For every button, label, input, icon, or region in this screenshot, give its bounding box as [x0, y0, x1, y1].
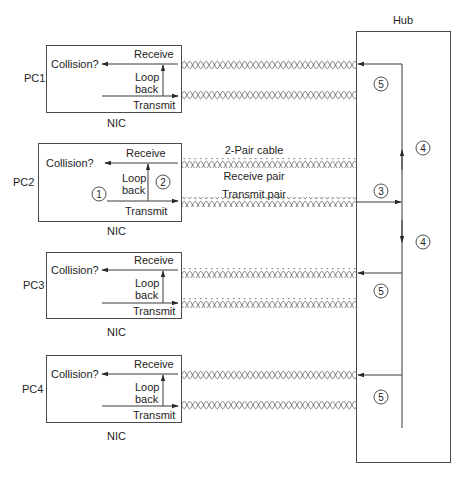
- back-label: back: [135, 83, 159, 95]
- collision-label: Collision?: [51, 368, 99, 380]
- transmit-label: Transmit: [133, 99, 175, 111]
- pc2-label: PC2: [13, 176, 34, 188]
- pc4-transmit-pair: [182, 401, 356, 411]
- transmit-pair-label: Transmit pair: [222, 188, 286, 200]
- pc2: PC2 Receive Collision? Loop back 2 1 Tra…: [13, 144, 182, 238]
- loop-label: Loop: [135, 381, 159, 393]
- step-5-pc3: 5: [374, 284, 388, 298]
- loop-label: Loop: [122, 172, 146, 184]
- nic-label: NIC: [107, 430, 126, 442]
- transmit-label: Transmit: [133, 305, 175, 317]
- loop-label: Loop: [135, 71, 159, 83]
- step-1: 1: [92, 187, 106, 201]
- pc2-receive-pair: [182, 158, 356, 168]
- receive-label: Receive: [126, 147, 166, 159]
- transmit-label: Transmit: [125, 205, 167, 217]
- receive-pair-label: Receive pair: [223, 170, 284, 182]
- pc3-label: PC3: [23, 279, 44, 291]
- step-5-pc4: 5: [374, 390, 388, 404]
- receive-label: Receive: [134, 254, 174, 266]
- step-2: 2: [156, 175, 170, 189]
- back-label: back: [122, 184, 146, 196]
- nic-label: NIC: [107, 326, 126, 338]
- pc4-receive-pair: [182, 370, 356, 380]
- svg-text:4: 4: [420, 143, 426, 154]
- cable-title: 2-Pair cable: [225, 144, 284, 156]
- svg-text:5: 5: [378, 392, 384, 403]
- step-5-pc1: 5: [374, 77, 388, 91]
- transmit-label: Transmit: [133, 409, 175, 421]
- pc4: PC4 Receive Collision? Loop back Transmi…: [22, 356, 182, 443]
- svg-text:4: 4: [420, 237, 426, 248]
- hub: Hub 5 4 3 4 5: [357, 14, 451, 463]
- hub-network-diagram: Hub 5 4 3 4 5: [0, 0, 467, 480]
- nic-label: NIC: [107, 225, 126, 237]
- pc3: PC3 Receive Collision? Loop back Transmi…: [23, 253, 182, 339]
- back-label: back: [135, 289, 159, 301]
- step-4-up: 4: [416, 141, 430, 155]
- loop-label: Loop: [135, 277, 159, 289]
- svg-text:2: 2: [160, 177, 166, 188]
- pc3-receive-pair: [182, 268, 356, 278]
- svg-text:5: 5: [378, 286, 384, 297]
- step-4-down: 4: [416, 235, 430, 249]
- nic-label: NIC: [107, 117, 126, 129]
- pc1-label: PC1: [24, 72, 45, 84]
- back-label: back: [135, 393, 159, 405]
- svg-text:5: 5: [378, 79, 384, 90]
- collision-label: Collision?: [51, 264, 99, 276]
- pc1-transmit-pair: [182, 91, 356, 101]
- pc4-label: PC4: [22, 383, 43, 395]
- receive-label: Receive: [134, 48, 174, 60]
- receive-label: Receive: [134, 358, 174, 370]
- hub-label: Hub: [393, 14, 413, 26]
- collision-label: Collision?: [46, 157, 94, 169]
- hub-box: [357, 32, 451, 463]
- step-3: 3: [374, 184, 388, 198]
- svg-text:1: 1: [96, 189, 102, 200]
- cables: 2-Pair cable Receive pair Transmit pair: [182, 59, 356, 411]
- pc1-receive-pair: [182, 59, 356, 69]
- svg-text:3: 3: [378, 186, 384, 197]
- pc1: PC1 Receive Collision? Loop back Transmi…: [24, 46, 182, 130]
- pc3-transmit-pair: [182, 298, 356, 308]
- collision-label: Collision?: [51, 58, 99, 70]
